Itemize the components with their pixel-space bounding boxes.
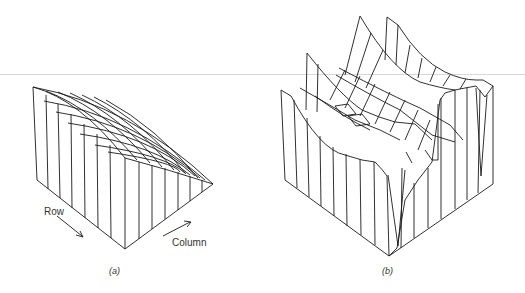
- caption-b: (b): [382, 266, 393, 276]
- column-axis-label: Column: [172, 237, 206, 248]
- panel-b-surface: [281, 16, 493, 256]
- caption-a: (a): [109, 266, 120, 276]
- row-axis-label: Row: [44, 206, 64, 217]
- panel-a-surface: [33, 87, 213, 249]
- figure-canvas: [0, 0, 525, 293]
